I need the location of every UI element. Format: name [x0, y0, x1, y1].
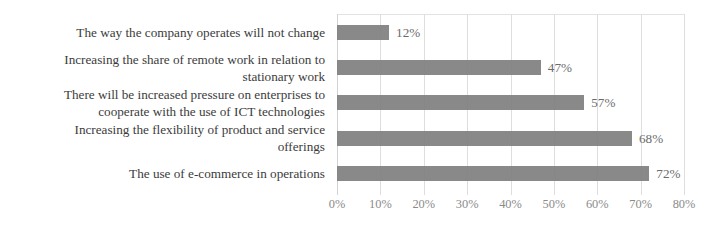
x-axis-tick-labels: 0%10%20%30%40%50%60%70%80% — [337, 197, 684, 217]
bar — [337, 166, 649, 181]
bar-row: 47% — [337, 60, 684, 75]
category-label: Increasing the flexibility of product an… — [0, 121, 331, 155]
bar-row: 72% — [337, 166, 684, 181]
bar-value-label: 68% — [639, 129, 663, 148]
x-tick-label: 10% — [369, 197, 392, 212]
bar — [337, 95, 584, 110]
bar-row: 57% — [337, 95, 684, 110]
bar-value-label: 57% — [591, 93, 615, 112]
x-tick-label: 40% — [499, 197, 522, 212]
bar — [337, 25, 389, 40]
bar-value-label: 12% — [396, 23, 420, 42]
category-label-column: The way the company operates will not ch… — [0, 14, 331, 195]
bar-row: 68% — [337, 131, 684, 146]
x-tick-label: 60% — [586, 197, 609, 212]
bar — [337, 131, 632, 146]
bar-row: 12% — [337, 25, 684, 40]
bar-chart: The way the company operates will not ch… — [0, 0, 704, 225]
x-tick-label: 70% — [629, 197, 652, 212]
x-tick-label: 20% — [412, 197, 435, 212]
x-tick-label: 0% — [329, 197, 346, 212]
x-tick-label: 80% — [673, 197, 696, 212]
category-label: There will be increased pressure on ente… — [0, 86, 331, 120]
bar-value-label: 72% — [656, 164, 680, 183]
bar-value-label: 47% — [548, 58, 572, 77]
category-label: Increasing the share of remote work in r… — [0, 51, 331, 85]
bar — [337, 60, 541, 75]
x-tick-label: 30% — [456, 197, 479, 212]
gridline-80 — [684, 14, 685, 195]
x-tick-label: 50% — [543, 197, 566, 212]
category-label: The way the company operates will not ch… — [0, 24, 331, 41]
category-label: The use of e-commerce in operations — [0, 165, 331, 182]
